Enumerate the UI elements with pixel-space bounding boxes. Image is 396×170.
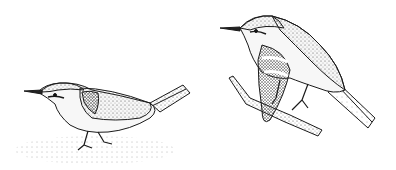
illustration-canvas <box>0 0 396 170</box>
ground-shadow <box>15 136 175 164</box>
bird-illustration <box>0 0 396 170</box>
perched-bird <box>220 16 375 128</box>
